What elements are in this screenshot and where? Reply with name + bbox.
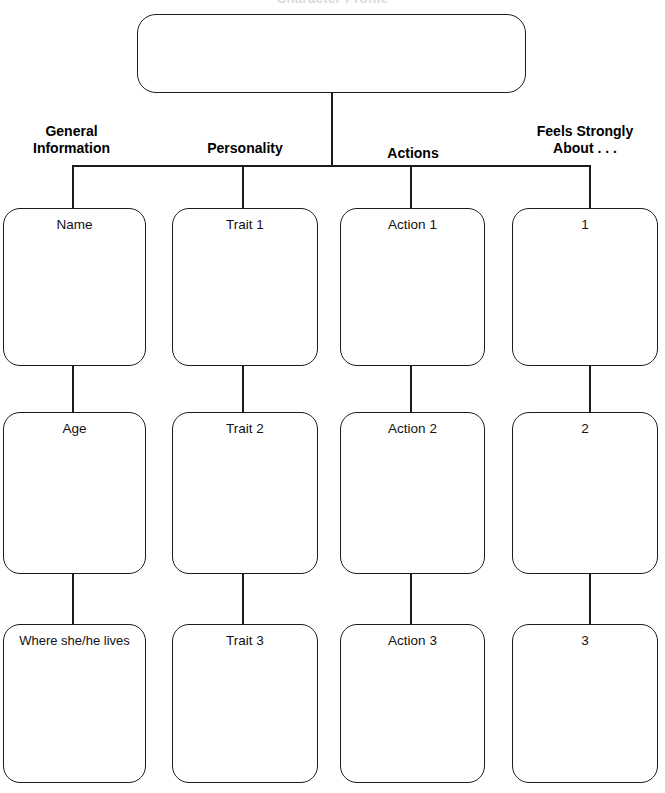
cell-label-r1c4: 1 [513,217,657,233]
cell-label-r2c4: 2 [513,421,657,437]
cell-box-r2c4[interactable]: 2 [512,412,658,574]
cell-label-r2c2: Trait 2 [173,421,317,437]
cell-box-r3c3[interactable]: Action 3 [340,624,485,783]
root-character-box[interactable] [137,14,526,93]
connector-r1-r2-col4 [589,366,591,412]
connector-r1-r2-col2 [242,366,244,412]
column-heading-personality: Personality [172,140,318,157]
connector-r1-r2-col3 [410,366,412,412]
page-title: Character Profile [0,0,665,6]
cell-label-r3c4: 3 [513,633,657,649]
cell-label-r1c1: Name [4,217,145,233]
cell-label-r1c2: Trait 1 [173,217,317,233]
cell-label-r2c3: Action 2 [341,421,484,437]
cell-box-r1c1[interactable]: Name [3,208,146,366]
connector-r2-r3-col2 [242,574,244,624]
connector-distribution-bar [72,165,591,167]
cell-box-r1c3[interactable]: Action 1 [340,208,485,366]
column-heading-feels-strongly-about: Feels Strongly About . . . [512,123,658,157]
connector-r2-r3-col3 [410,574,412,624]
connector-drop-col2 [242,165,244,208]
character-map-worksheet: Character Profile General Information Pe… [0,0,665,793]
connector-root-stem [331,92,333,166]
cell-label-r1c3: Action 1 [341,217,484,233]
cell-label-r3c3: Action 3 [341,633,484,649]
connector-drop-col3 [410,165,412,208]
column-heading-actions: Actions [340,145,486,162]
cell-box-r2c1[interactable]: Age [3,412,146,574]
cell-box-r3c2[interactable]: Trait 3 [172,624,318,783]
cell-box-r1c2[interactable]: Trait 1 [172,208,318,366]
connector-r2-r3-col4 [589,574,591,624]
connector-r1-r2-col1 [72,366,74,412]
cell-label-r2c1: Age [4,421,145,437]
cell-label-r3c2: Trait 3 [173,633,317,649]
connector-r2-r3-col1 [72,574,74,624]
cell-box-r2c2[interactable]: Trait 2 [172,412,318,574]
cell-box-r3c1[interactable]: Where she/he lives [3,624,146,783]
cell-label-r3c1: Where she/he lives [4,633,145,649]
connector-drop-col4 [589,165,591,208]
column-heading-general-information: General Information [4,123,139,157]
cell-box-r1c4[interactable]: 1 [512,208,658,366]
cell-box-r3c4[interactable]: 3 [512,624,658,783]
cell-box-r2c3[interactable]: Action 2 [340,412,485,574]
connector-drop-col1 [72,165,74,208]
